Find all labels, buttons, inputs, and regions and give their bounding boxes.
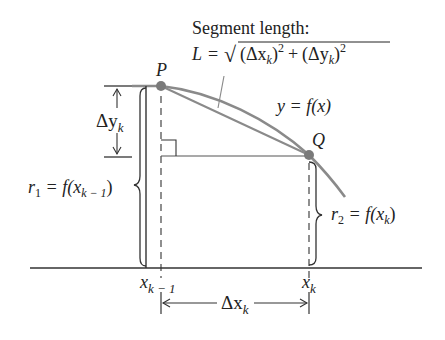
label-q: Q: [312, 130, 325, 150]
term2: (Δy: [302, 44, 329, 65]
r2-brace: [309, 162, 322, 265]
term1: (Δx: [240, 44, 267, 65]
plus: +: [288, 44, 298, 64]
right-angle-marker: [161, 140, 176, 156]
label-p: P: [155, 60, 167, 80]
point-q: [304, 150, 314, 160]
tick-label-xk-1: xk − 1: [139, 272, 176, 296]
delta-x-label: Δxk: [221, 292, 249, 317]
curve-label: y = f(x): [275, 96, 331, 117]
arc-length-diagram: Segment length: L = √ (Δxk)2+(Δyk)2 P Q …: [0, 0, 445, 340]
segment-length-title: Segment length:: [192, 18, 309, 38]
point-p: [156, 81, 166, 91]
term2-exp: 2: [340, 41, 346, 55]
formula-lhs: L: [191, 44, 202, 64]
delta-y-label: Δyk: [96, 110, 124, 135]
formula-eq: =: [208, 44, 218, 64]
formula: L = √ (Δxk)2+(Δyk)2: [191, 41, 390, 67]
r1-brace: [134, 88, 146, 266]
term1-exp: 2: [278, 41, 284, 55]
r1-label: r1 = f(xk − 1): [28, 177, 113, 200]
svg-text:(Δxk)2+(Δyk)2: (Δxk)2+(Δyk)2: [240, 41, 346, 67]
radical-icon: √: [224, 42, 237, 67]
r2-label: r2 = f(xk): [331, 204, 395, 227]
